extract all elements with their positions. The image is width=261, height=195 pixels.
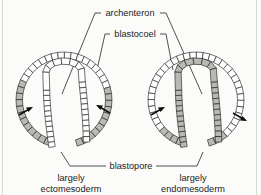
left-inner-cell [82,120,89,126]
right-inner-cell [214,120,221,126]
left-inner-cell [82,115,89,121]
left-inner-cell [80,87,87,93]
right-inner-cell [175,72,182,90]
embryo-figure: archenteron blastocoel blastopore largel… [0,0,261,195]
right-inner-cell [212,93,219,99]
left-inner-cell [44,105,51,111]
caption-left-line2: ectomesoderm [41,184,102,194]
left-inner-cell [43,72,50,90]
left-inner-cell [44,100,51,106]
label-blastocoel: blastocoel [114,29,155,39]
left-outer-cell [16,100,23,107]
left-inner-cell [83,126,90,132]
right-inner-cell [210,68,217,82]
label-archenteron: archenteron [105,8,154,18]
right-inner-cell [175,90,182,95]
left-inner-cell [44,111,51,117]
left-inner-cell [83,131,90,137]
right-inner-cell [213,104,220,110]
right-outer-cell [148,100,155,107]
right-inner-cell [176,105,183,111]
left-outer-cell [104,87,112,95]
right-inner-cell [176,111,183,117]
left-outer-cell [105,94,112,101]
left-inner-cell [44,95,51,100]
right-inner-cell [214,115,221,121]
left-inner-cell [82,109,89,115]
left-inner-cell [83,136,90,142]
right-outer-cell [236,87,244,95]
caption-left-line1: largely [57,173,84,183]
caption-right-line2: endomesoderm [161,184,225,194]
right-inner-cell [215,126,222,132]
left-inner-cell [45,116,52,122]
left-inner-cell [81,98,88,104]
right-inner-cell [176,100,183,106]
left-inner-cell [78,68,85,82]
right-inner-cell [214,109,221,115]
caption-right-line1: largely [179,173,206,183]
left-inner-cell [43,90,50,95]
right-inner-cell [177,116,184,122]
label-blastopore: blastopore [110,161,153,171]
gastrulation-diagram: archenteron blastocoel blastopore largel… [0,0,261,195]
right-inner-cell [215,136,222,142]
right-inner-cell [215,131,222,137]
right-inner-cell [211,82,218,88]
left-inner-cell [80,93,87,99]
right-outer-cell [237,94,244,101]
right-inner-cell [213,98,220,104]
right-inner-cell [176,95,183,100]
right-inner-cell [212,87,219,93]
left-inner-cell [81,104,88,110]
left-inner-cell [79,82,86,88]
